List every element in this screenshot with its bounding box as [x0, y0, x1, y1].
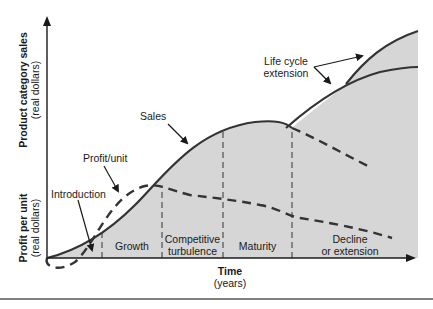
- annotation-sales: Sales: [140, 110, 166, 122]
- stage-label-growth: Growth: [102, 240, 162, 252]
- stage-label-decline-1: Decline: [305, 233, 395, 245]
- x-axis-title: Time: [205, 265, 255, 277]
- annotation-profit-unit: Profit/unit: [83, 152, 127, 164]
- x-axis-unit: (years): [205, 277, 255, 289]
- y-axis-sales-unit: (real dollars): [29, 20, 41, 160]
- stage-label-maturity: Maturity: [223, 240, 292, 252]
- annotation-introduction: Introduction: [51, 188, 106, 200]
- life-cycle-arrow-lower: [314, 67, 330, 83]
- y-axis-sales-title: Product category sales: [17, 20, 29, 160]
- annotation-life-cycle-2: extension: [256, 67, 316, 79]
- stage-label-turbulence-2: turbulence: [162, 245, 223, 257]
- sales-arrow: [168, 124, 187, 143]
- stage-label-turbulence-1: Competitive: [162, 233, 223, 245]
- y-axis-profit-title: Profit per unit: [17, 188, 29, 268]
- y-axis-profit-unit: (real dollars): [29, 188, 41, 268]
- profit-unit-arrow: [104, 166, 118, 191]
- annotation-life-cycle-1: Life cycle: [256, 55, 316, 67]
- stage-label-decline-2: or extension: [305, 245, 395, 257]
- y-axis-label-sales: Product category sales (real dollars): [17, 20, 41, 160]
- y-axis-label-profit: Profit per unit (real dollars): [17, 188, 41, 268]
- product-life-cycle-diagram: [0, 0, 433, 309]
- life-cycle-arrow-upper: [314, 56, 362, 67]
